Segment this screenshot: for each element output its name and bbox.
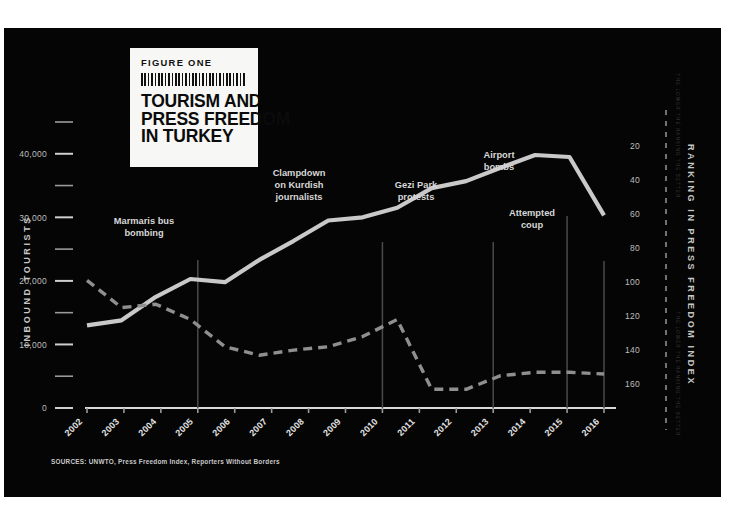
right-tick-label-80: 80 [630, 243, 640, 253]
annotation-line: coup [521, 220, 544, 230]
annotation-line: Airport [484, 150, 515, 160]
annotation-line: Attempted [509, 208, 555, 218]
right-tick-label-20: 20 [630, 141, 640, 151]
figure-title: TOURISM ANDPRESS FREEDOMIN TURKEY [141, 93, 247, 146]
annotation-2013: Gezi Parkprotests [395, 180, 438, 202]
x-axis-label-2012: 2012 [432, 416, 454, 438]
x-axis-label-2010: 2010 [358, 416, 380, 438]
annotation-line: on Kurdish [274, 180, 323, 190]
tourism-press-freedom-chart: 010,00020,00030,00040,000INBOUND TOURIST… [4, 28, 721, 497]
figure-title-line-2: IN TURKEY [141, 128, 247, 146]
right-tick-label-140: 140 [625, 345, 640, 355]
x-axis-label-2014: 2014 [506, 416, 528, 438]
x-axis-label-2006: 2006 [210, 416, 232, 438]
figure-title-line-0: TOURISM AND [141, 93, 247, 111]
figure-label: FIGURE ONE [141, 57, 247, 68]
right-tick-label-120: 120 [625, 311, 640, 321]
annotation-line: Clampdown [273, 168, 326, 178]
series-press-freedom [87, 280, 604, 389]
right-tick-label-160: 160 [625, 379, 640, 389]
x-axis-label-2016: 2016 [580, 416, 602, 438]
right-axis-title: RANKING IN PRESS FREEDOM INDEX [686, 144, 696, 386]
annotation-2010: Clampdownon Kurdishjournalists [273, 168, 326, 202]
annotation-line: bombing [124, 228, 164, 238]
annotation-line: protests [398, 192, 435, 202]
right-tick-label-60: 60 [630, 209, 640, 219]
x-axis-label-2002: 2002 [63, 416, 85, 438]
x-axis-label-2011: 2011 [395, 416, 416, 437]
annotation-line: bombs [484, 162, 514, 172]
x-axis-label-2009: 2009 [321, 416, 343, 438]
x-axis-label-2013: 2013 [469, 416, 491, 438]
x-axis-label-2008: 2008 [284, 416, 306, 438]
annotation-line: Marmaris bus [114, 216, 174, 226]
annotation-2005: Marmaris busbombing [114, 216, 174, 238]
figure-title-card: FIGURE ONE TOURISM ANDPRESS FREEDOMIN TU… [130, 48, 258, 167]
left-tick-label-0: 0 [42, 403, 47, 413]
x-axis-label-2003: 2003 [100, 416, 122, 438]
right-tick-label-40: 40 [630, 175, 640, 185]
source-credit: SOURCES: UNWTO, Press Freedom Index, Rep… [51, 458, 280, 465]
right-axis-note-top: THE LOWER THE RANKING THE BETTER [675, 74, 680, 199]
annotation-line: Gezi Park [395, 180, 438, 190]
left-tick-label-40000: 40,000 [19, 149, 47, 159]
x-axis-label-2004: 2004 [136, 416, 158, 438]
right-tick-label-100: 100 [625, 277, 640, 287]
left-axis-title: INBOUND TOURISTS [22, 215, 32, 346]
annotation-2016: Attemptedcoup [509, 208, 555, 230]
right-axis-note-bottom: THE LOWER THE RANKING THE BETTER [675, 312, 680, 437]
x-axis-label-2007: 2007 [247, 416, 269, 438]
x-axis-label-2015: 2015 [543, 416, 565, 438]
barcode-decoration [141, 73, 246, 86]
chart-panel: 010,00020,00030,00040,000INBOUND TOURIST… [4, 28, 721, 497]
series-tourists [87, 155, 604, 325]
annotation-2015: Airportbombs [484, 150, 515, 172]
x-axis-label-2005: 2005 [173, 416, 195, 438]
annotation-line: journalists [274, 192, 322, 202]
